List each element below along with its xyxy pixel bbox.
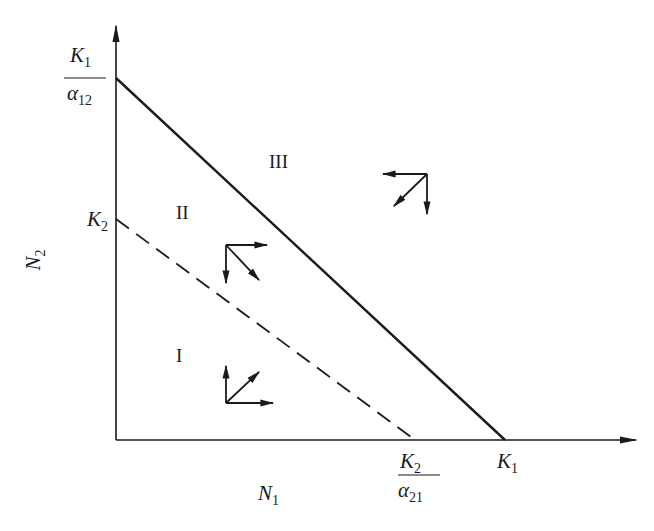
- region-label-ii: II: [176, 202, 189, 223]
- vector-group-region-iii: [383, 174, 427, 214]
- phase-plane-diagram: N2 N1 K1 α12 K2 K2 α21 K1 I II III: [0, 0, 654, 531]
- x-intercept-k2-over-alpha21: K2 α21: [398, 449, 440, 505]
- arrow-down-right-icon: [226, 245, 259, 280]
- svg-text:α21: α21: [398, 478, 423, 505]
- y-intercept-k2: K2: [86, 207, 108, 234]
- vector-group-region-ii: [226, 245, 267, 283]
- arrow-up-right-icon: [226, 372, 259, 403]
- solid-isocline: [116, 78, 505, 440]
- dashed-isocline: [116, 219, 415, 440]
- x-axis-label: N1: [257, 481, 279, 508]
- x-intercept-k1: K1: [496, 449, 518, 476]
- axes: [116, 26, 636, 440]
- y-intercept-k1-over-alpha12: K1 α12: [64, 43, 106, 108]
- region-label-iii: III: [269, 151, 288, 172]
- svg-text:K1: K1: [69, 43, 91, 70]
- arrow-down-left-icon: [394, 174, 427, 206]
- region-label-i: I: [176, 345, 182, 366]
- svg-text:K2: K2: [399, 449, 421, 476]
- svg-text:α12: α12: [67, 81, 92, 108]
- vector-group-region-i: [226, 366, 273, 403]
- y-axis-label: N2: [21, 249, 48, 271]
